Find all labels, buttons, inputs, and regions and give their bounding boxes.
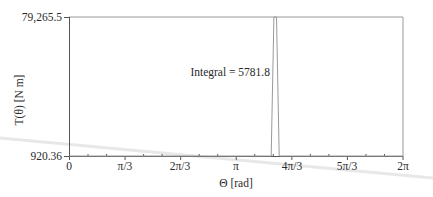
torque-series-line — [70, 17, 404, 156]
x-tick-label-pi: π — [233, 160, 239, 172]
y-tick-label-max: 79,265.5 — [0, 11, 62, 23]
background-artifact-line — [0, 138, 433, 178]
x-tick-label-pi-3: π/3 — [118, 160, 133, 172]
x-tick-label-0: 0 — [66, 160, 72, 172]
y-ticks — [64, 18, 69, 157]
x-tick-label-5pi-3: 5π/3 — [337, 160, 358, 172]
x-tick-label-2pi-3: 2π/3 — [170, 160, 191, 172]
integral-annotation: Integral = 5781.8 — [190, 66, 270, 78]
torque-chart — [0, 0, 433, 197]
x-axis-label: Θ [rad] — [219, 177, 253, 189]
x-tick-label-2pi: 2π — [397, 160, 409, 172]
y-tick-label-min: 920.36 — [0, 150, 62, 162]
plot-frame — [69, 17, 403, 157]
y-axis-label: T(θ) [N m] — [13, 75, 25, 126]
x-tick-label-4pi-3: 4π/3 — [282, 160, 303, 172]
